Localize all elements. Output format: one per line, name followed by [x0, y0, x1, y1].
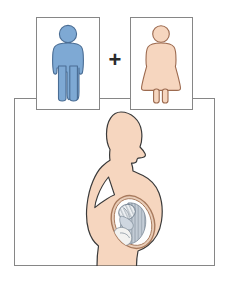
female-leg-left — [154, 89, 160, 103]
male-leg-right — [70, 66, 78, 101]
diagram-canvas: + — [0, 0, 229, 281]
conception-diagram: + — [0, 0, 229, 281]
male-head — [59, 25, 76, 42]
plus-operator: + — [109, 47, 122, 72]
male-leg-left — [59, 66, 67, 101]
female-leg-right — [162, 89, 168, 103]
female-torso-skirt — [142, 43, 181, 90]
female-head — [153, 26, 170, 43]
